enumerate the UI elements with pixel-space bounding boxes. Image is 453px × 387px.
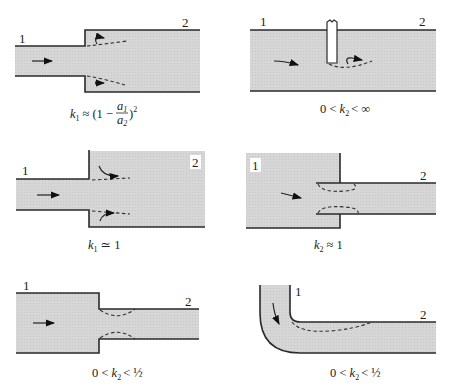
frac-denominator: a2 [117,113,127,128]
elbow-wall-inner [290,285,436,322]
loss-coefficient-caption: k1≈(1 − [70,107,113,123]
gate-plate [327,20,337,63]
frac-numerator: a1 [117,99,127,114]
panel-obstruction: 1 2 0 < k2< ∞ [250,14,436,118]
loss-coefficient-caption: 0 < k2< ½ [330,366,381,382]
station-2-label: 2 [192,155,199,170]
station-1-label: 1 [23,278,30,293]
station-2-label: 2 [419,14,426,29]
fluid-region [250,30,436,91]
loss-coefficient-caption: k2≈ 1 [314,238,343,254]
loss-coefficient-caption: k1≃ 1 [88,238,120,254]
fluid-region [246,153,436,228]
station-1-label: 1 [19,31,26,46]
station-2-label: 2 [185,294,192,309]
station-1-label: 1 [252,158,259,173]
panel-reentrant-inlet: 1 2 k2≈ 1 [246,153,436,254]
panel-pipe-exit: 1 2 k1≃ 1 [16,150,205,254]
station-2-label: 2 [182,15,189,30]
minor-loss-figure: 1 2 k1≈(1 − a1 a2 )2 1 2 0 < k2< ∞ 1 [0,0,453,387]
fluid-region [16,151,205,227]
panel-elbow: 1 2 0 < k2< ½ [260,284,436,382]
caption-close: )2 [129,105,137,121]
panel-sudden-expansion: 1 2 k1≈(1 − a1 a2 )2 [15,15,200,128]
loss-coefficient-caption: 0 < k2< ∞ [320,102,370,118]
station-1-label: 1 [295,284,302,299]
station-1-label: 1 [22,163,29,178]
loss-coefficient-caption: 0 < k2< ½ [92,366,143,382]
fluid-region [260,285,436,353]
panel-sudden-contraction: 1 2 0 < k2< ½ [16,278,199,382]
station-1-label: 1 [260,14,267,29]
station-2-label: 2 [420,307,427,322]
station-2-label: 2 [420,168,427,183]
